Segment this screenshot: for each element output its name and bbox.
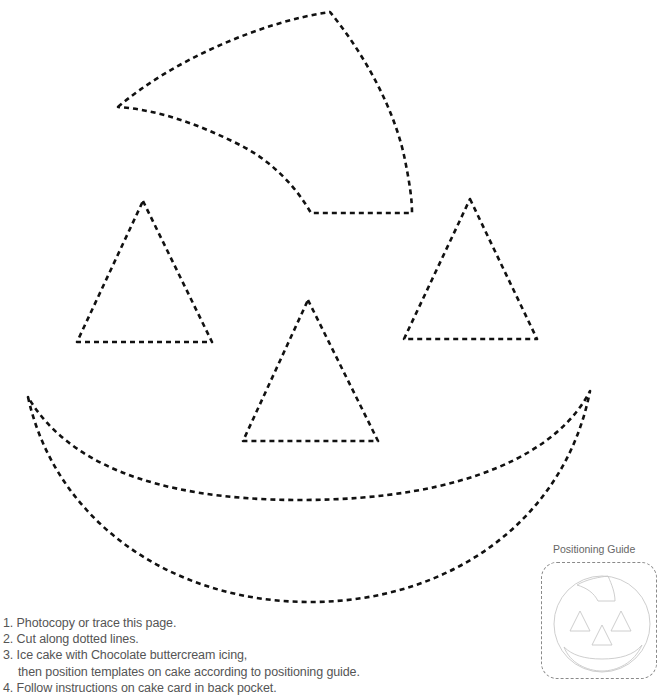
instruction-item: 1. Photocopy or trace this page. bbox=[3, 615, 360, 631]
instruction-item: 2. Cut along dotted lines. bbox=[3, 631, 360, 647]
positioning-guide-illustration bbox=[542, 563, 658, 680]
right-eye-template bbox=[404, 199, 537, 339]
instruction-continuation: then position templates on cake accordin… bbox=[3, 664, 360, 680]
positioning-guide bbox=[541, 562, 657, 679]
mouth-template bbox=[28, 391, 590, 602]
guide-nose bbox=[592, 625, 612, 645]
instruction-item: 4. Follow instructions on cake card in b… bbox=[3, 680, 360, 696]
guide-left-eye bbox=[570, 611, 590, 631]
guide-right-eye bbox=[611, 611, 631, 631]
nose-template bbox=[243, 300, 378, 441]
stem-template bbox=[118, 12, 412, 213]
instructions-list: 1. Photocopy or trace this page. 2. Cut … bbox=[3, 615, 360, 696]
left-eye-template bbox=[77, 201, 212, 342]
guide-mouth bbox=[564, 645, 642, 671]
positioning-guide-title: Positioning Guide bbox=[553, 543, 635, 555]
instruction-item: 3. Ice cake with Chocolate buttercream i… bbox=[3, 647, 360, 663]
